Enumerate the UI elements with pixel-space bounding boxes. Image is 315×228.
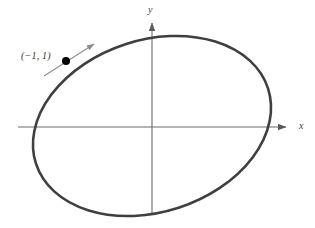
point-marker <box>62 57 70 65</box>
x-axis-label: x <box>299 121 303 131</box>
y-axis-label: y <box>148 5 152 15</box>
ellipse-tangent-diagram <box>0 0 315 228</box>
figure-canvas: (−1, 1) y x <box>0 0 315 228</box>
point-coordinate-label: (−1, 1) <box>21 51 51 61</box>
